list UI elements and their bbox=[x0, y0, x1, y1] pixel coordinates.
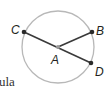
circle-diagram bbox=[0, 0, 112, 97]
point-b bbox=[90, 30, 95, 35]
point-c bbox=[22, 30, 27, 35]
label-d: D bbox=[95, 66, 104, 78]
label-a: A bbox=[51, 54, 59, 66]
label-b: B bbox=[96, 25, 104, 37]
segment-ab bbox=[58, 32, 92, 47]
point-d bbox=[89, 61, 94, 66]
point-a-center bbox=[56, 45, 60, 49]
label-c: C bbox=[11, 24, 20, 36]
cropped-text-fragment: ula bbox=[0, 75, 15, 88]
